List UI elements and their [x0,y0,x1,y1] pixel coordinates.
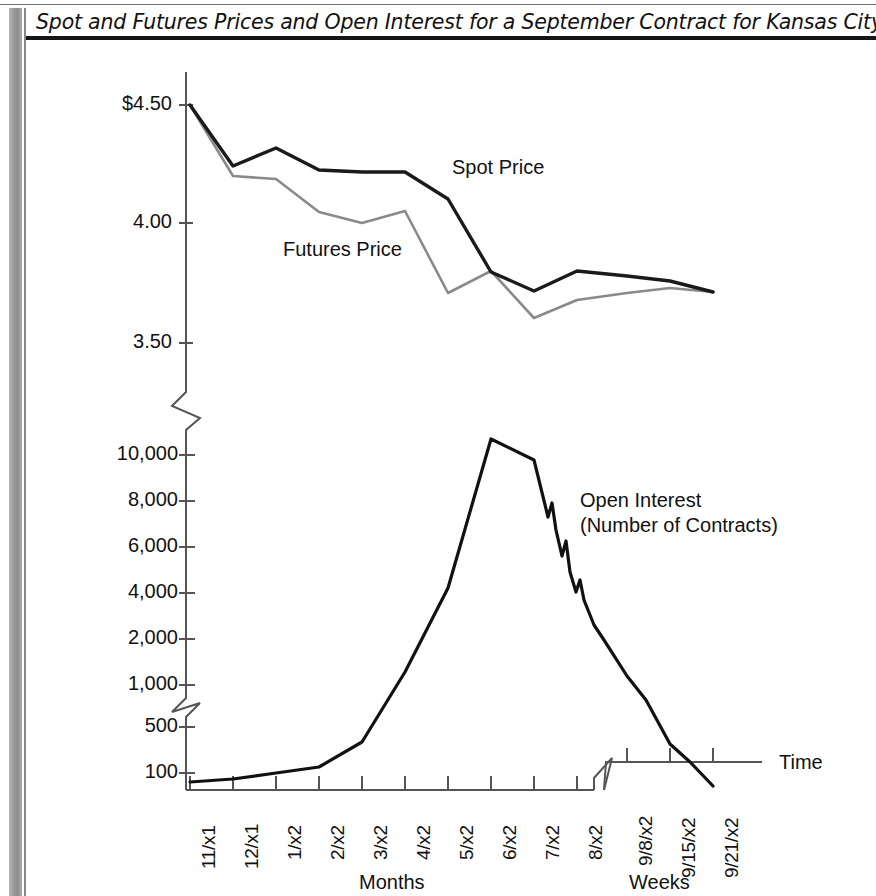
x-group-label-weeks: Weeks [629,870,690,895]
price-ytick-label-450: $4.50 [52,92,172,115]
spot-price-annotation: Spot Price [452,155,544,180]
xtick-label-4-x2: 4/x2 [413,825,435,860]
xtick-label-9-15-x2: 9/15/x2 [678,818,700,878]
oi-ytick-label-4000: 4,000 [48,580,178,603]
oi-ytick-label-2000: 2,000 [48,626,178,649]
spot-price-line [190,105,713,292]
oi-ytick-label-1000: 1,000 [48,672,178,695]
oi-ytick-label-100: 100 [48,760,178,783]
xtick-label-3-x2: 3/x2 [370,825,392,860]
xtick-label-9-21-x2: 9/21/x2 [721,818,743,878]
xtick-label-9-8-x2: 9/8/x2 [635,816,657,866]
futures-price-annotation: Futures Price [283,237,402,262]
futures-price-line [190,105,713,318]
xtick-label-11-x1: 11/x1 [198,825,220,869]
xtick-label-2-x2: 2/x2 [327,825,349,860]
xtick-label-8-x2: 8/x2 [585,825,607,860]
oi-ytick-label-500: 500 [48,714,178,737]
oi-ytick-label-10000: 10,000 [48,442,178,465]
x-group-label-months: Months [359,870,425,895]
xtick-label-1-x2: 1/x2 [284,825,306,860]
oi-ytick-label-8000: 8,000 [48,488,178,511]
xtick-label-6-x2: 6/x2 [499,825,521,860]
open-interest-annotation-line2: (Number of Contracts) [580,513,778,538]
xtick-label-5-x2: 5/x2 [456,825,478,860]
figure-page: Spot and Futures Prices and Open Interes… [0,0,876,896]
oi-ytick-label-6000: 6,000 [48,534,178,557]
price-ytick-label-400: 4.00 [52,210,172,233]
price-ytick-label-350: 3.50 [52,330,172,353]
open-interest-annotation-line1: Open Interest [580,488,701,513]
xtick-label-7-x2: 7/x2 [542,825,564,860]
x-axis-title: Time [779,750,823,775]
xtick-label-12-x1: 12/x1 [241,824,263,869]
yaxis-break-upper [172,360,200,440]
xaxis-right-segment [604,762,762,790]
